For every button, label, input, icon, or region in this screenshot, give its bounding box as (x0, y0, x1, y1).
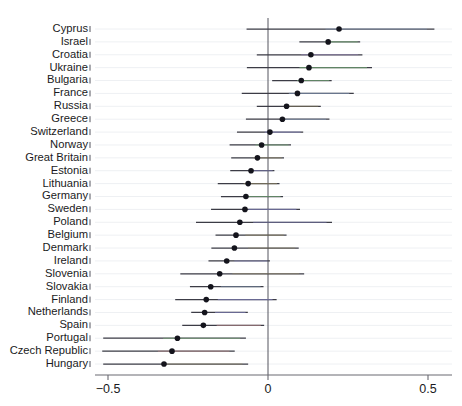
point-estimate-finland (203, 297, 209, 303)
category-label-ireland: Ireland (54, 254, 88, 266)
x-axis-tick-label-2: 0.5 (419, 382, 436, 396)
point-estimate-greece (280, 116, 286, 122)
point-estimate-netherlands (202, 310, 208, 316)
point-estimate-denmark (232, 245, 238, 251)
category-label-slovakia: Slovakia (46, 280, 89, 292)
category-label-slovenia: Slovenia (45, 267, 89, 279)
point-estimate-belgium (233, 232, 239, 238)
point-estimate-ireland (224, 258, 230, 264)
point-estimate-bulgaria (298, 78, 304, 84)
category-label-israel: Israel (61, 35, 88, 47)
category-label-norway: Norway (50, 138, 88, 150)
x-axis-tick-label-1: 0 (265, 382, 272, 396)
forest-plot-figure: CyprusIsraelCroatiaUkraineBulgariaFrance… (0, 0, 462, 406)
point-estimate-norway (259, 142, 265, 148)
category-label-czech-republic: Czech Republic (10, 344, 89, 356)
category-label-denmark: Denmark (43, 241, 89, 253)
point-estimate-croatia (308, 52, 314, 58)
category-label-bulgaria: Bulgaria (47, 73, 89, 85)
point-estimate-poland (237, 219, 243, 225)
point-estimate-switzerland (267, 129, 273, 135)
category-label-hungary: Hungary (46, 357, 89, 369)
point-estimate-slovenia (217, 271, 223, 277)
category-label-belgium: Belgium (48, 228, 88, 240)
point-estimate-spain (201, 323, 207, 329)
point-estimate-lithuania (245, 181, 251, 187)
category-label-france: France (53, 86, 88, 98)
point-estimate-czech-republic (169, 348, 175, 354)
category-label-sweden: Sweden (48, 202, 88, 214)
point-estimate-germany (243, 194, 249, 200)
category-label-cyprus: Cyprus (53, 22, 89, 34)
point-estimate-russia (284, 104, 290, 110)
point-estimate-great-britain (255, 155, 261, 161)
category-label-netherlands: Netherlands (28, 305, 89, 317)
point-estimate-france (295, 91, 301, 97)
category-label-spain: Spain (59, 318, 88, 330)
point-estimate-slovakia (208, 284, 214, 290)
category-label-finland: Finland (51, 293, 88, 305)
category-label-switzerland: Switzerland (30, 125, 88, 137)
category-label-estonia: Estonia (51, 164, 89, 176)
point-estimate-cyprus (336, 26, 342, 32)
category-label-greece: Greece (51, 112, 88, 124)
category-label-germany: Germany (42, 189, 88, 201)
point-estimate-portugal (175, 335, 181, 341)
category-label-portugal: Portugal (46, 331, 88, 343)
point-estimate-sweden (242, 207, 248, 213)
forest-plot-canvas: CyprusIsraelCroatiaUkraineBulgariaFrance… (0, 0, 462, 406)
point-estimate-estonia (248, 168, 254, 174)
x-axis-tick-label-0: −0.5 (96, 382, 121, 396)
category-label-lithuania: Lithuania (43, 177, 89, 189)
category-label-great-britain: Great Britain (25, 151, 88, 163)
point-estimate-ukraine (306, 65, 312, 71)
category-label-poland: Poland (53, 215, 88, 227)
category-label-croatia: Croatia (52, 48, 89, 60)
point-estimate-hungary (161, 361, 167, 367)
category-label-ukraine: Ukraine (49, 61, 88, 73)
category-label-russia: Russia (54, 99, 89, 111)
point-estimate-israel (325, 39, 331, 45)
